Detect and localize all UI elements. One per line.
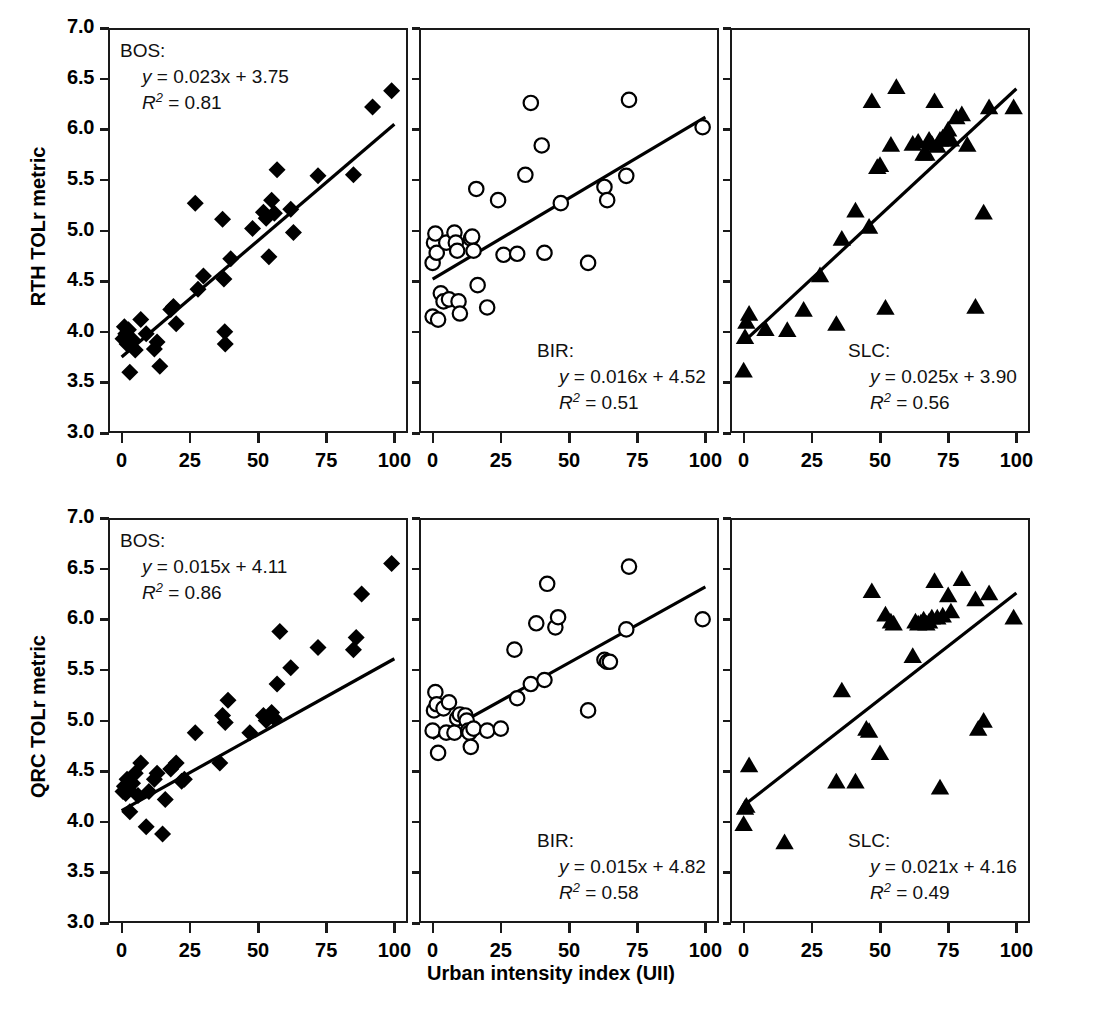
panel-row1-col2: BIR: y = 0.016x + 4.52 R2 = 0.51 [419,28,719,433]
y-tick-mark [723,78,731,81]
x-tick-mark [568,433,571,443]
y-tick-label: 4.0 [42,809,94,832]
y-tick-mark [412,821,420,824]
y-tick-mark [723,230,731,233]
y-tick-mark [412,517,420,520]
x-tick-mark [257,923,260,933]
equation-label: y = 0.021x + 4.16 [848,854,1017,880]
x-tick-mark [743,433,746,443]
data-point [524,677,538,691]
r2-label: R2 = 0.56 [848,389,1017,416]
y-tick-mark [100,720,109,723]
data-point [211,755,228,772]
data-point [882,136,900,152]
data-point [846,773,864,789]
data-point [151,358,168,375]
x-tick-label: 100 [986,449,1046,472]
figure-multipanel-scatter: BOS: y = 0.023x + 3.75 R2 = 0.81 BIR: y … [0,0,1102,1022]
data-point [222,250,239,267]
data-point [535,138,549,152]
data-point [846,202,864,218]
data-point [931,779,949,795]
x-tick-label: 0 [92,939,152,962]
y-tick-label: 3.0 [42,910,94,933]
x-tick-mark [947,923,950,933]
y-tick-mark [723,331,731,334]
x-tick-label: 0 [714,939,774,962]
r2-label: R2 = 0.51 [537,389,706,416]
x-tick-label: 50 [850,939,910,962]
panel-row2-col3: SLC: y = 0.021x + 4.16 R2 = 0.49 [730,518,1030,923]
data-point [244,220,261,237]
y-tick-mark [100,280,109,283]
x-tick-mark [189,923,192,933]
y-tick-mark [100,331,109,334]
x-tick-label: 100 [986,939,1046,962]
r2-label: R2 = 0.49 [848,879,1017,906]
regression-line [744,593,1017,806]
data-point [966,298,984,314]
y-tick-label: 5.0 [42,708,94,731]
data-point [269,676,286,693]
x-tick-label: 50 [228,939,288,962]
y-tick-mark [723,381,731,384]
data-point [507,642,521,656]
data-point [470,278,484,292]
data-point [121,364,138,381]
site-label: SLC: [848,338,1017,364]
annotation-regression: BOS: y = 0.023x + 3.75 R2 = 0.81 [120,38,289,116]
x-tick-mark [432,433,435,443]
data-point [425,723,439,737]
data-point [871,156,889,172]
y-tick-mark [412,230,420,233]
data-point [168,315,185,332]
data-point [775,834,793,850]
y-tick-mark [100,618,109,621]
data-point [187,724,204,741]
y-tick-mark [723,871,731,874]
y-tick-mark [723,280,731,283]
y-tick-mark [723,669,731,672]
x-tick-mark [1015,433,1018,443]
y-tick-label: 6.5 [42,556,94,579]
data-point [833,682,851,698]
y-tick-mark [412,179,420,182]
data-point [811,267,829,283]
y-tick-mark [723,618,731,621]
x-tick-mark [636,923,639,933]
x-tick-label: 25 [782,939,842,962]
data-point [974,712,992,728]
data-point [925,572,943,588]
data-point [431,312,445,326]
y-tick-label: 6.5 [42,66,94,89]
data-point [464,740,478,754]
data-point [383,82,400,99]
x-tick-label: 0 [403,939,463,962]
y-tick-label: 4.5 [42,758,94,781]
data-point [740,757,758,773]
x-tick-mark [743,923,746,933]
x-tick-mark [879,923,882,933]
data-point [524,96,538,110]
data-point [833,230,851,246]
x-tick-mark [636,433,639,443]
data-point [778,321,796,337]
data-point [871,744,889,760]
y-tick-mark [412,618,420,621]
data-point [695,120,709,134]
data-point [876,299,894,315]
y-tick-mark [723,770,731,773]
x-tick-mark [811,923,814,933]
annotation-regression: BIR: y = 0.016x + 4.52 R2 = 0.51 [537,338,706,416]
y-tick-mark [723,432,731,435]
y-tick-mark [412,78,420,81]
y-tick-mark [723,922,731,925]
data-point [622,559,636,573]
panel-row1-col3: SLC: y = 0.025x + 3.90 R2 = 0.56 [730,28,1030,433]
y-tick-mark [412,871,420,874]
data-point [154,825,171,842]
data-point [466,721,480,735]
site-label: SLC: [848,828,1017,854]
y-tick-mark [100,179,109,182]
y-tick-label: 5.5 [42,657,94,680]
